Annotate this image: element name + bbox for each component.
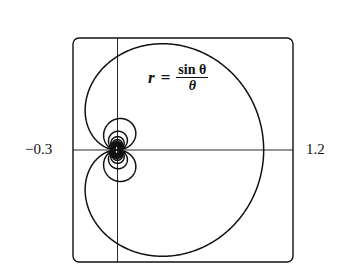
equation-numerator: sin θ	[176, 62, 208, 78]
polar-plot	[0, 0, 345, 264]
equation-lhs: r	[148, 68, 155, 88]
equation-equals: =	[161, 68, 171, 88]
equation-label: r = sin θ θ	[148, 62, 208, 93]
x-min-tick-label: −0.3	[25, 141, 52, 158]
x-max-tick-label: 1.2	[306, 141, 325, 158]
equation-denominator: θ	[189, 78, 196, 93]
equation-fraction: sin θ θ	[176, 62, 208, 93]
